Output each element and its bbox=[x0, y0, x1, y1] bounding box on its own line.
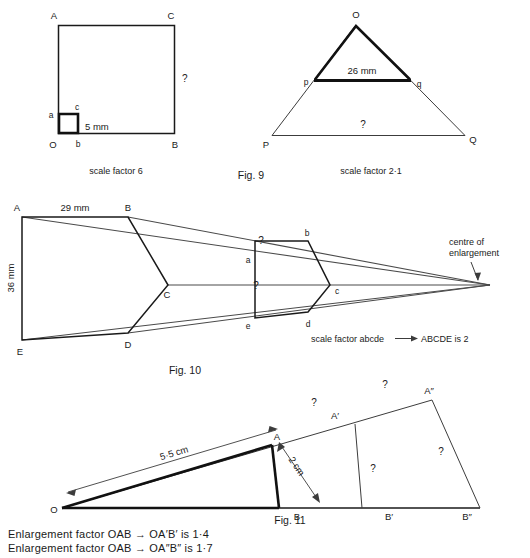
label-Aprime: A′ bbox=[331, 410, 339, 421]
fig9-right-panel: O P Q p q 26 mm ? scale factor 2·1 bbox=[263, 9, 477, 176]
label-q: q bbox=[417, 79, 422, 89]
label-c-small: c bbox=[335, 286, 340, 296]
label-e-small: e bbox=[246, 321, 251, 331]
scale-factor-arrow-head bbox=[411, 336, 418, 342]
centre-of-enlargement-line2: enlargement bbox=[449, 248, 500, 258]
fig9-left-scale-factor: scale factor 6 bbox=[89, 166, 143, 176]
dimension-55cm-label: 5·5 cm bbox=[159, 443, 190, 462]
label-d-small: d bbox=[306, 319, 311, 329]
segment-Ap-Bp bbox=[355, 424, 362, 508]
fig10-scale-factor-prefix: scale factor abcde bbox=[311, 334, 384, 344]
unknown-ApBp: ? bbox=[370, 463, 376, 474]
dimension-36mm: 36 mm bbox=[5, 263, 16, 292]
dimension-2cm-arrow-bottom bbox=[312, 493, 320, 503]
label-O-fig11: O bbox=[50, 504, 57, 515]
label-O: O bbox=[49, 139, 56, 150]
dimension-big-triangle-unknown: ? bbox=[360, 119, 366, 130]
label-O-apex: O bbox=[352, 9, 359, 20]
unknown-AddBdd: ? bbox=[438, 446, 444, 457]
label-Q: Q bbox=[469, 134, 476, 145]
ray-A-to-centre bbox=[22, 217, 490, 285]
dimension-small-ab-unknown: ? bbox=[258, 235, 264, 246]
footer-line-2: Enlargement factor OAB → OA″B″ is 1·7 bbox=[8, 542, 213, 554]
label-p: p bbox=[304, 77, 309, 87]
centre-of-enlargement-arrow-head bbox=[475, 273, 482, 282]
label-Adoubleprime: A″ bbox=[424, 385, 434, 396]
label-a: a bbox=[49, 110, 54, 120]
label-a-small: a bbox=[246, 255, 251, 265]
figures-canvas: A C O B a c b 5 mm ? scale factor 6 O P … bbox=[0, 0, 530, 558]
label-Bprime: B′ bbox=[385, 511, 393, 522]
unknown-OAdoubleprime: ? bbox=[382, 379, 388, 390]
label-Bdoubleprime: B″ bbox=[462, 511, 472, 522]
projection-rays bbox=[22, 217, 490, 340]
unknown-OAprime: ? bbox=[311, 397, 317, 408]
label-c: c bbox=[75, 102, 80, 112]
figure-sheet: A C O B a c b 5 mm ? scale factor 6 O P … bbox=[0, 0, 530, 558]
fig9-caption: Fig. 9 bbox=[238, 169, 264, 181]
fig11-panel: 5·5 cm 2 cm O A B A′ B′ A″ B″ ? ? ? ? bbox=[50, 379, 480, 522]
label-A-big: A bbox=[14, 202, 21, 213]
segment-AB bbox=[272, 445, 279, 508]
fig10-scale-factor-suffix: ABCDE is 2 bbox=[421, 334, 469, 344]
fig10-caption: Fig. 10 bbox=[169, 364, 201, 376]
dimension-55cm-arrow-left bbox=[66, 490, 76, 497]
dimension-2cm-label: 2 cm bbox=[287, 454, 308, 477]
fig9-left-panel: A C O B a c b 5 mm ? scale factor 6 bbox=[49, 10, 188, 176]
dimension-small-width-unknown: ? bbox=[253, 280, 259, 291]
fig11-caption: Fig. 11 bbox=[274, 514, 305, 526]
dimension-29mm: 29 mm bbox=[60, 202, 89, 213]
label-D-big: D bbox=[125, 339, 132, 350]
label-b-small: b bbox=[305, 228, 310, 238]
label-B: B bbox=[172, 139, 178, 150]
ray-E-to-centre bbox=[22, 285, 490, 340]
small-square-outline bbox=[59, 114, 78, 133]
footer-line-1: Enlargement factor OAB → OA′B′ is 1·4 bbox=[8, 528, 209, 540]
centre-of-enlargement-line1: centre of bbox=[449, 237, 485, 247]
big-square-outline bbox=[59, 26, 175, 134]
label-P: P bbox=[263, 139, 269, 150]
dimension-26mm: 26 mm bbox=[347, 65, 376, 76]
dimension-5mm: 5 mm bbox=[85, 121, 109, 132]
label-E-big: E bbox=[17, 346, 23, 357]
dimension-55cm-line bbox=[68, 430, 276, 492]
dimension-big-square-unknown: ? bbox=[182, 73, 188, 84]
dimension-2cm-group: 2 cm bbox=[277, 442, 320, 503]
label-A-fig11: A bbox=[274, 431, 281, 442]
fig9-right-scale-factor: scale factor 2·1 bbox=[340, 166, 402, 176]
label-C-big: C bbox=[164, 289, 171, 300]
label-b: b bbox=[76, 139, 81, 149]
label-A: A bbox=[51, 10, 58, 21]
label-C: C bbox=[168, 10, 175, 21]
dimension-55cm-group: 5·5 cm bbox=[66, 426, 278, 496]
label-B-big: B bbox=[125, 202, 131, 213]
fig10-panel: A B C D E a b c d e 29 mm 36 mm ? ? cent… bbox=[5, 202, 500, 357]
